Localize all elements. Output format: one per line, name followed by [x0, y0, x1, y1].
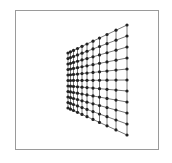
grid-node: [91, 102, 94, 105]
grid-node: [69, 96, 72, 99]
grid-node: [105, 124, 108, 127]
grid-node: [80, 52, 83, 55]
grid-node: [125, 122, 128, 125]
grid-node: [76, 60, 79, 63]
perspective-grid-mesh: [0, 0, 172, 163]
grid-node: [72, 85, 75, 88]
grid-node: [80, 72, 83, 75]
grid-node: [114, 98, 117, 101]
grid-node: [72, 55, 75, 58]
grid-node: [91, 63, 94, 66]
grid-node: [125, 89, 128, 92]
grid-node: [69, 50, 72, 53]
grid-node: [85, 115, 88, 118]
grid-node: [114, 29, 117, 32]
grid-node: [76, 72, 79, 75]
grid-node: [80, 86, 83, 89]
grid-node: [98, 62, 101, 65]
grid-node: [125, 100, 128, 103]
grid-node: [85, 57, 88, 60]
grid-node: [125, 45, 128, 48]
grid-node: [80, 92, 83, 95]
grid-node: [105, 42, 108, 45]
grid-node: [98, 45, 101, 48]
grid-node: [91, 40, 94, 43]
grid-node: [125, 34, 128, 37]
grid-node: [114, 49, 117, 52]
grid-node: [105, 51, 108, 54]
grid-node: [69, 73, 72, 76]
grid-node: [76, 66, 79, 69]
grid-node: [76, 79, 79, 82]
grid-node: [91, 71, 94, 74]
grid-node: [105, 106, 108, 109]
grid-node: [80, 79, 83, 82]
grid-node: [114, 88, 117, 91]
grid-node: [91, 55, 94, 58]
grid-node: [91, 94, 94, 97]
grid-edge-horizontal: [116, 100, 127, 102]
grid-node: [91, 110, 94, 113]
grid-node: [91, 118, 94, 121]
grid-node: [105, 33, 108, 36]
grid-node: [85, 108, 88, 111]
grid-node: [105, 88, 108, 91]
grid-node: [72, 103, 75, 106]
grid-node: [72, 67, 75, 70]
grid-node: [114, 128, 117, 131]
grid-edge-horizontal: [116, 58, 127, 60]
grid-node: [125, 67, 128, 70]
grid-node: [80, 113, 83, 116]
grid-node: [76, 53, 79, 56]
grid-node: [72, 73, 75, 76]
grid-node: [80, 106, 83, 109]
grid-node: [125, 111, 128, 114]
grid-node: [114, 59, 117, 62]
grid-edge-horizontal: [116, 90, 127, 91]
grid-node: [98, 79, 101, 82]
grid-node: [98, 112, 101, 115]
grid-node: [98, 70, 101, 73]
grid-node: [105, 60, 108, 63]
grid-node: [69, 90, 72, 93]
grid-node: [105, 79, 108, 82]
grid-node: [85, 79, 88, 82]
grid-node: [76, 98, 79, 101]
grid-node: [85, 64, 88, 67]
grid-node: [80, 65, 83, 68]
grid-node: [85, 86, 88, 89]
grid-node: [114, 69, 117, 72]
grid-edge-horizontal: [116, 47, 127, 50]
grid-node: [76, 104, 79, 107]
grid-node: [98, 121, 101, 124]
grid-node: [91, 47, 94, 50]
grid-node: [98, 104, 101, 107]
grid-node: [80, 99, 83, 102]
grid-node: [69, 79, 72, 82]
grid-node: [69, 67, 72, 70]
grid-node: [69, 56, 72, 59]
grid-node: [125, 56, 128, 59]
grid-node: [125, 78, 128, 81]
grid-node: [114, 78, 117, 81]
grid-node: [98, 87, 101, 90]
grid-node: [125, 133, 128, 136]
grid-node: [76, 85, 79, 88]
grid-edge-horizontal: [116, 120, 127, 124]
grid-node: [72, 97, 75, 100]
grid-edge-horizontal: [116, 25, 127, 30]
grid-node: [69, 62, 72, 65]
grid-node: [98, 96, 101, 99]
grid-node: [72, 61, 75, 64]
grid-node: [72, 91, 75, 94]
grid-node: [114, 39, 117, 42]
grid-node: [72, 79, 75, 82]
grid-node: [85, 101, 88, 104]
grid-node: [91, 87, 94, 90]
grid-edge-horizontal: [116, 110, 127, 113]
grid-node: [69, 102, 72, 105]
grid-edge-horizontal: [116, 130, 127, 135]
grid-node: [80, 45, 83, 48]
grid-edge-horizontal: [116, 36, 127, 40]
grid-node: [114, 108, 117, 111]
